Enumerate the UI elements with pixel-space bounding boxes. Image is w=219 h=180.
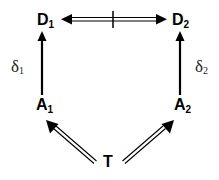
node-d2-subscript: 2 — [184, 19, 190, 30]
edge-d1-d2 — [61, 11, 167, 28]
edge-label-delta2: δ2 — [195, 58, 208, 75]
node-a1-subscript: 1 — [48, 104, 54, 115]
node-a1: A1 — [36, 97, 53, 113]
edge-label-delta1: δ1 — [11, 58, 24, 75]
node-a2: A2 — [174, 97, 191, 113]
node-a2-label: A — [174, 96, 186, 113]
delta2-subscript: 2 — [203, 65, 208, 76]
delta1-subscript: 1 — [19, 65, 24, 76]
edge-a1-d1 — [38, 31, 47, 95]
node-d1: D1 — [37, 12, 54, 28]
node-d1-subscript: 1 — [49, 19, 55, 30]
delta1-symbol: δ — [11, 57, 19, 76]
edge-t-a2 — [123, 120, 175, 164]
node-t-label: T — [103, 153, 113, 170]
edge-a2-d2 — [176, 31, 185, 95]
node-a1-label: A — [36, 96, 48, 113]
node-t: T — [103, 154, 113, 170]
arrowhead-right-icon — [156, 14, 167, 25]
node-d2: D2 — [172, 12, 189, 28]
node-a2-subscript: 2 — [186, 104, 192, 115]
node-d1-label: D — [37, 11, 49, 28]
edge-t-a1 — [46, 120, 97, 164]
arrowhead-left-icon — [61, 14, 72, 25]
node-d2-label: D — [172, 11, 184, 28]
delta2-symbol: δ — [195, 57, 203, 76]
